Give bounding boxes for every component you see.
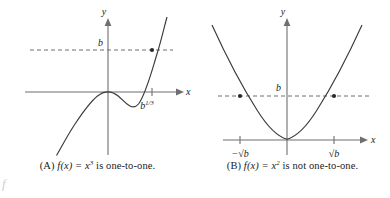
y-axis-label-b: y — [280, 6, 286, 17]
figure-container: y x b b1/3 (A) f(x) = x3 is one-to-one. — [0, 0, 390, 198]
caption-a-exponent: 3 — [90, 159, 94, 167]
x-axis-arrow-b — [360, 137, 368, 144]
level-label-b-a: b — [98, 37, 103, 48]
caption-b-exponent: 2 — [276, 159, 280, 167]
caption-panel-b: (B) f(x) = x2 is not one-to-one. — [195, 160, 390, 171]
x-axis-arrow-a — [176, 89, 184, 96]
radicand-right: b — [334, 148, 339, 159]
caption-a-arg: (x) = — [60, 160, 82, 171]
caption-b-arg: (x) = — [247, 160, 269, 171]
panel-b-plot: y x b −√b √b — [195, 0, 390, 160]
cubic-curve-path — [57, 17, 168, 156]
intersection-point-b-left — [238, 94, 242, 98]
caption-a-rest: is one-to-one. — [96, 160, 155, 171]
tick-exponent-onethird: 1/3 — [145, 99, 154, 106]
x-tick-label-neg-sqrt-b: −√b — [231, 148, 248, 159]
panel-b-parabola: y x b −√b √b (B) f(x) = x2 is not one-to… — [195, 0, 390, 198]
x-axis-label-a: x — [185, 86, 191, 97]
caption-b-prefix: (B) — [227, 160, 241, 171]
panel-a-plot: y x b b1/3 — [0, 0, 195, 160]
caption-a-prefix: (A) — [40, 160, 55, 171]
intersection-point-a — [150, 48, 154, 52]
panel-a-cubic: y x b b1/3 (A) f(x) = x3 is one-to-one. — [0, 0, 195, 198]
y-axis-arrow-a — [105, 18, 112, 26]
intersection-point-b-right — [332, 94, 336, 98]
caption-panel-a: (A) f(x) = x3 is one-to-one. — [0, 160, 195, 171]
caption-b-rest: is not one-to-one. — [283, 160, 359, 171]
radicand-left: b — [244, 148, 249, 159]
page-edge-artifact: f — [2, 176, 6, 192]
neg-sign: − — [231, 148, 238, 159]
x-tick-label-pos-sqrt-b: √b — [329, 148, 340, 159]
level-label-b-b: b — [276, 82, 281, 93]
y-axis-arrow-b — [284, 18, 291, 26]
x-axis-label-b: x — [370, 134, 376, 145]
y-axis-label-a: y — [101, 6, 107, 17]
x-tick-label-b-cuberoot: b1/3 — [140, 99, 154, 111]
